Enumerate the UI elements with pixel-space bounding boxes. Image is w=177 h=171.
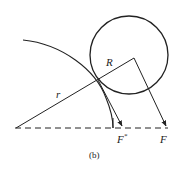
large-arc: [23, 40, 113, 128]
label-R: R: [105, 56, 113, 68]
label-F-star: F*: [116, 132, 128, 145]
label-F: F: [159, 133, 167, 145]
F-arrow: [134, 58, 166, 126]
diagram-canvas: r R F* F (b): [0, 0, 177, 171]
label-r: r: [56, 88, 61, 100]
radius-line: [16, 58, 134, 128]
caption: (b): [89, 150, 100, 160]
small-circle: [90, 16, 168, 94]
F-star-arrow: [98, 80, 122, 126]
